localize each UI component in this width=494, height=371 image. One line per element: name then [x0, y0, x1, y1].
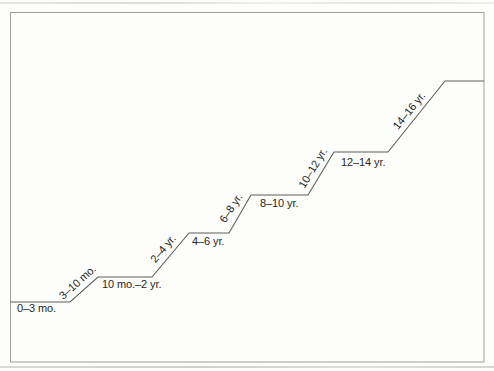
stage-label-0-3-mo: 0–3 mo. — [17, 302, 56, 314]
stage-label-8-10-yr: 8–10 yr. — [260, 197, 298, 209]
stage-label-12-14-yr: 12–14 yr. — [341, 156, 385, 168]
scanned-page: 0–3 mo. 3–10 mo. 10 mo.–2 yr. 2–4 yr. 4–… — [0, 0, 494, 371]
staircase-figure: 0–3 mo. 3–10 mo. 10 mo.–2 yr. 2–4 yr. 4–… — [0, 0, 494, 371]
stage-label-4-6-yr: 4–6 yr. — [192, 235, 224, 247]
stage-label-2-4-yr: 2–4 yr. — [148, 232, 178, 265]
figure-border — [11, 13, 485, 363]
stage-label-10mo-2yr: 10 mo.–2 yr. — [102, 278, 161, 290]
stage-label-6-8-yr: 6–8 yr. — [217, 191, 245, 225]
